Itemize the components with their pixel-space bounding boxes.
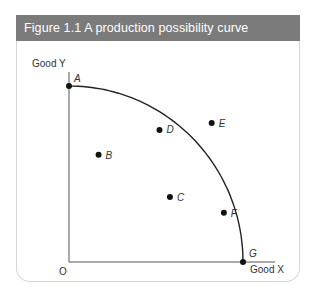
point-d [156,127,162,133]
point-g [240,259,246,265]
point-label-c: C [177,192,185,203]
point-f [221,210,227,216]
point-label-g: G [249,248,257,259]
ppc-diagram: Good Y Good X O ABCDEFG [0,0,314,295]
origin-label: O [59,266,67,277]
point-a [66,83,72,89]
ppc-curve [69,86,243,262]
point-b [96,152,102,158]
point-label-a: A [73,73,81,84]
point-label-b: B [106,150,113,161]
point-label-e: E [219,118,226,129]
point-e [209,120,215,126]
point-c [167,194,173,200]
point-label-f: F [231,208,238,219]
x-axis-label: Good X [250,264,284,275]
point-label-d: D [166,124,173,135]
y-axis-label: Good Y [32,58,66,69]
